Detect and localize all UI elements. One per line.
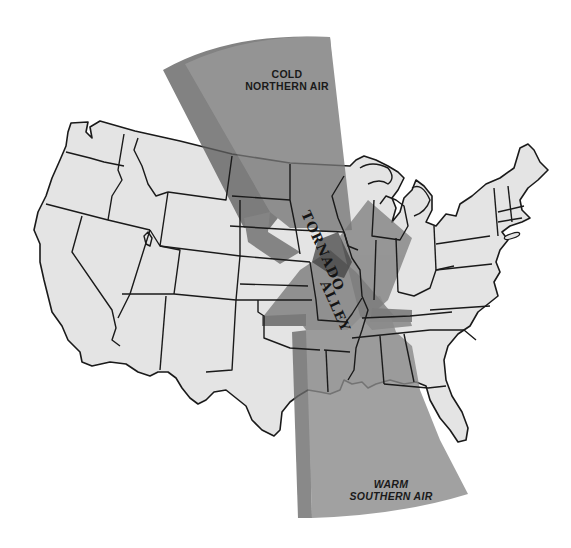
warm-air-label-line1: WARM — [326, 478, 456, 490]
cold-air-label-line2: NORTHERN AIR — [222, 80, 352, 92]
tornado-alley-diagram: COLD NORTHERN AIR WARM SOUTHERN AIR TORN… — [0, 0, 571, 548]
warm-air-label: WARM SOUTHERN AIR — [326, 478, 456, 502]
cold-air-label: COLD NORTHERN AIR — [222, 68, 352, 92]
cold-air-label-line1: COLD — [222, 68, 352, 80]
warm-air-label-line2: SOUTHERN AIR — [326, 490, 456, 502]
